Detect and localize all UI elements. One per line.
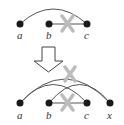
- top-graph: a b c: [17, 9, 91, 41]
- node-c: [84, 100, 91, 107]
- node-label-x: x: [106, 109, 112, 121]
- edge-b-x-arc: [49, 85, 110, 104]
- edge-a-c-arc: [20, 85, 87, 104]
- node-label-b: b: [46, 29, 52, 41]
- graph-transformation-diagram: a b c a b c x: [0, 0, 124, 125]
- node-b: [46, 21, 53, 28]
- edge-a-c-arc: [20, 9, 87, 24]
- node-label-c: c: [84, 29, 89, 41]
- node-a: [17, 100, 24, 107]
- node-label-c: c: [84, 109, 89, 121]
- bottom-graph: a b c x: [17, 67, 114, 121]
- down-arrow-icon: [34, 47, 63, 72]
- node-c: [84, 21, 91, 28]
- node-b: [46, 100, 53, 107]
- node-x: [107, 100, 114, 107]
- node-label-a: a: [17, 29, 23, 41]
- node-a: [17, 21, 24, 28]
- node-label-b: b: [46, 109, 52, 121]
- node-label-a: a: [17, 109, 23, 121]
